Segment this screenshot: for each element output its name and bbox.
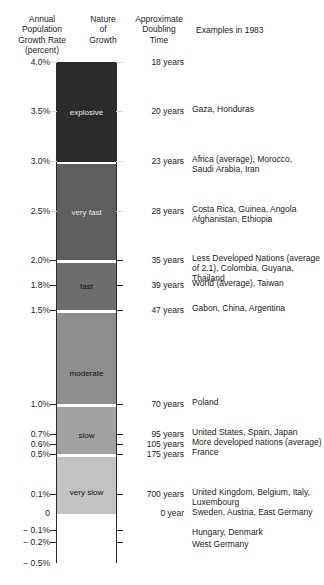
example-entry: France [192, 447, 324, 457]
example-entry: Gaza, Honduras [192, 104, 324, 114]
example-entry: More developed nations (average) [192, 437, 324, 447]
tick-mark [50, 161, 57, 162]
tick-mark [50, 62, 57, 63]
doubling-time-label: 105 years [120, 440, 184, 449]
examples-column: Gaza, HondurasAfrica (average), Morocco,… [192, 0, 324, 585]
tick-mark [50, 454, 57, 455]
tick-mark [50, 542, 57, 543]
doubling-time-label: 47 years [120, 306, 184, 315]
doubling-time-label: 35 years [120, 256, 184, 265]
doubling-time-label: 0 year [120, 509, 184, 518]
tick-mark [50, 530, 57, 531]
doubling-time-label: 18 years [120, 58, 184, 67]
tick-mark [50, 211, 57, 212]
tick-mark [50, 260, 57, 261]
tick-mark [50, 494, 57, 495]
doubling-time-label: 700 years [120, 490, 184, 499]
population-growth-chart: Annual Population Growth Rate (percent) … [0, 0, 324, 585]
example-entry: Africa (average), Morocco, Saudi Arabia,… [192, 154, 324, 174]
example-entry: United Kingdom, Belgium, Italy, Luxembou… [192, 487, 324, 507]
doubling-time-label: 95 years [120, 430, 184, 439]
example-entry: West Germany [192, 539, 324, 549]
doubling-time-label: 70 years [120, 400, 184, 409]
example-entry: Gabon, China, Argentina [192, 303, 324, 313]
doubling-time-label: 20 years [120, 107, 184, 116]
example-entry: Costa Rica, Guinea, Angola Afghanistan, … [192, 204, 324, 224]
tick-mark [50, 285, 57, 286]
doubling-time-label: 175 years [120, 450, 184, 459]
doubling-time-label: 23 years [120, 157, 184, 166]
doubling-time-label: 39 years [120, 281, 184, 290]
example-entry: Hungary, Denmark [192, 527, 324, 537]
example-entry: Sweden, Austria, East Germany [192, 507, 324, 517]
tick-mark [50, 404, 57, 405]
tick-mark [50, 111, 57, 112]
doubling-time-label: 28 years [120, 207, 184, 216]
tick-mark [50, 310, 57, 311]
example-entry: United States, Spain, Japan [192, 427, 324, 437]
doubling-time-column: 18 years20 years23 years28 years35 years… [120, 0, 188, 585]
tick-mark [50, 434, 57, 435]
example-entry: Poland [192, 397, 324, 407]
tick-mark [50, 444, 57, 445]
example-entry: World (average), Taiwan [192, 278, 324, 288]
